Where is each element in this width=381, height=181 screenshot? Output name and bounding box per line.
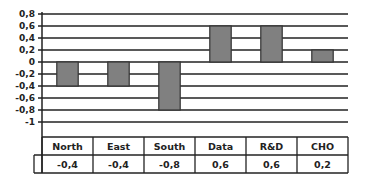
y-tick-label: -0,6: [15, 93, 35, 103]
table-header-cell: North: [52, 141, 83, 152]
bar-data: [210, 26, 231, 62]
gridlines: [38, 14, 348, 122]
y-tick-label: 0,4: [19, 33, 35, 43]
y-tick-label: -0,2: [15, 69, 35, 79]
y-tick-label: -0,8: [15, 105, 35, 115]
table-value-cell: -0,4: [108, 159, 129, 170]
bar-cho: [312, 50, 333, 62]
table-header-cell: CHO: [311, 141, 334, 152]
bar-east: [108, 62, 129, 86]
y-tick-labels: 0,80,60,40,20-0,2-0,4-0,6-0,8-1: [15, 9, 35, 127]
y-tick-label: 0,8: [19, 9, 35, 19]
data-table: North-0,4East-0,4South-0,8Data0,6R&D0,6C…: [34, 137, 348, 173]
table-value-cell: 0,6: [212, 159, 229, 170]
bar-south: [159, 62, 180, 110]
y-tick-label: -1: [25, 117, 35, 127]
y-tick-label: 0,2: [19, 45, 35, 55]
table-value-cell: 0,2: [314, 159, 331, 170]
table-header-cell: R&D: [260, 141, 284, 152]
y-tick-label: 0,6: [19, 21, 35, 31]
table-header-cell: Data: [208, 141, 233, 152]
bar-north: [57, 62, 78, 86]
table-header-cell: East: [107, 141, 131, 152]
table-value-cell: 0,6: [263, 159, 280, 170]
y-tick-label: -0,4: [15, 81, 35, 91]
bar-r-d: [261, 26, 282, 62]
y-tick-label: 0: [29, 57, 35, 67]
table-value-cell: -0,4: [57, 159, 78, 170]
table-header-cell: South: [154, 141, 186, 152]
table-value-cell: -0,8: [159, 159, 180, 170]
bar-chart: 0,80,60,40,20-0,2-0,4-0,6-0,8-1 North-0,…: [0, 0, 381, 181]
